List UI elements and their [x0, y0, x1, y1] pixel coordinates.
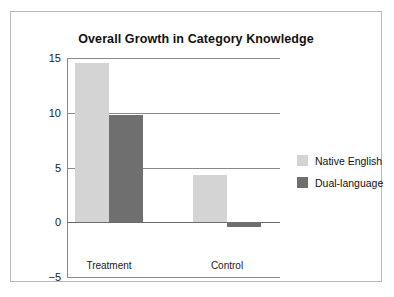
ytick-label-5: 5 — [55, 162, 61, 174]
ytick-label-minus5: −5 — [48, 271, 61, 283]
xtick-label-control: Control — [211, 260, 243, 271]
bar-treatment-native-english — [75, 63, 109, 222]
legend-label-native-english: Native English — [315, 155, 382, 167]
legend-item-native-english: Native English — [297, 152, 393, 169]
legend-item-dual-language: Dual-language — [297, 174, 393, 191]
legend-swatch-dual-language — [297, 177, 308, 188]
bar-control-dual-language — [227, 222, 261, 226]
plot-area: 15 10 5 0 −5 Treatment Control — [67, 58, 280, 277]
legend-swatch-native-english — [297, 155, 308, 166]
bar-treatment-dual-language — [109, 115, 143, 222]
chart-legend: Native English Dual-language — [297, 152, 393, 196]
legend-label-dual-language: Dual-language — [315, 177, 383, 189]
bar-control-native-english — [193, 175, 227, 222]
xtick-label-treatment: Treatment — [86, 260, 131, 271]
gridline-minus5: −5 — [67, 277, 280, 278]
chart-title: Overall Growth in Category Knowledge — [11, 32, 381, 46]
ytick-label-15: 15 — [49, 52, 61, 64]
ytick-label-0: 0 — [55, 216, 61, 228]
gridline-15: 15 — [67, 58, 280, 59]
chart-figure: Overall Growth in Category Knowledge 15 … — [0, 0, 394, 297]
ytick-label-10: 10 — [49, 107, 61, 119]
figure-border: Overall Growth in Category Knowledge 15 … — [10, 11, 382, 282]
